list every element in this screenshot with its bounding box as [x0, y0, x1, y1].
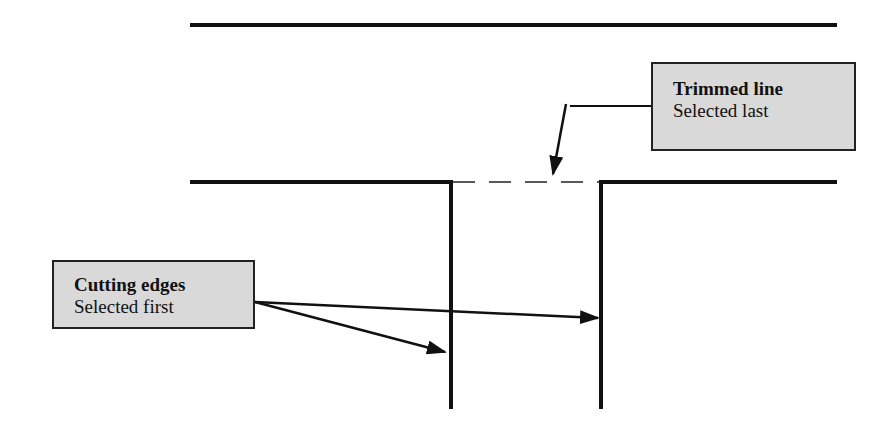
cutting-edges-callout: Cutting edges Selected first [52, 260, 255, 329]
cutting-edges-callout-title: Cutting edges [74, 274, 253, 296]
trimmed-line-callout: Trimmed line Selected last [651, 62, 856, 151]
trimmed-line-callout-subtitle: Selected last [673, 100, 854, 122]
cutting-edges-callout-subtitle: Selected first [74, 296, 253, 318]
trimmed-line-callout-title: Trimmed line [673, 78, 854, 100]
trimmed-leader-arrow [553, 104, 566, 174]
